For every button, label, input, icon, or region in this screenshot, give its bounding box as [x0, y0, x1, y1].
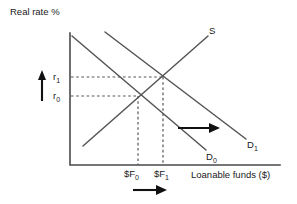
quantity-label-f1: $F1: [154, 168, 169, 181]
rate-increase-arrow: [38, 70, 46, 101]
x-axis-label: Loanable funds ($): [191, 169, 270, 180]
loanable-funds-diagram: Real rate % Loanable funds ($) S D0 D1 r…: [0, 0, 297, 204]
y-axis-label: Real rate %: [10, 6, 60, 17]
supply-curve: [83, 36, 208, 146]
quantity-label-f0: $F0: [124, 168, 139, 181]
supply-curve-label: S: [209, 25, 215, 36]
diagram-canvas: Real rate % Loanable funds ($) S D0 D1 r…: [0, 0, 297, 204]
rate-label-r1: r1: [53, 71, 60, 84]
demand-curve-shifted-label: D1: [247, 139, 258, 152]
demand-curve-shifted: [105, 32, 246, 139]
demand-curve-initial-label: D0: [206, 151, 217, 164]
quantity-increase-arrow: [133, 185, 167, 195]
rate-label-r0: r0: [53, 90, 60, 103]
